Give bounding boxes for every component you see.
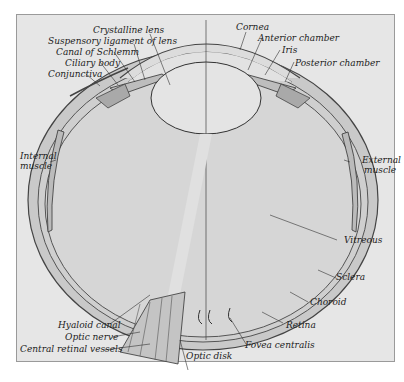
label-hyaloid-canal: Hyaloid canal <box>58 320 121 330</box>
label-ciliary-body: Ciliary body <box>65 58 120 68</box>
label-optic-disk: Optic disk <box>186 351 232 361</box>
label-canal-of-schlemm: Canal of Schlemm <box>56 47 139 57</box>
label-internal-muscle-1: Internal <box>20 151 57 161</box>
label-central-retinal-vessels: Central retinal vessels <box>20 344 123 354</box>
label-posterior-chamber: Posterior chamber <box>295 58 380 68</box>
label-external-muscle-1: External <box>362 155 401 165</box>
label-choroid: Choroid <box>310 297 346 307</box>
label-fovea-centralis: Fovea centralis <box>245 340 315 350</box>
label-suspensory-ligament: Suspensory ligament of lens <box>48 36 177 46</box>
label-iris: Iris <box>282 45 297 55</box>
label-internal-muscle-2: muscle <box>20 161 52 171</box>
label-anterior-chamber: Anterior chamber <box>258 33 339 43</box>
label-vitreous: Vitreous <box>344 235 382 245</box>
label-optic-nerve: Optic nerve <box>65 332 118 342</box>
label-cornea: Cornea <box>236 22 269 32</box>
label-conjunctiva: Conjunctiva <box>48 69 102 79</box>
label-external-muscle-2: muscle <box>364 165 396 175</box>
label-retina: Retina <box>286 320 316 330</box>
label-crystalline-lens: Crystalline lens <box>93 25 164 35</box>
label-sclera: Sclera <box>336 272 365 282</box>
